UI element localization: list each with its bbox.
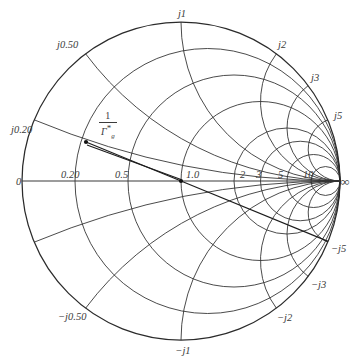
real-axis-label-8: ∞ [340,174,349,189]
reactance-arc--2 [261,181,341,308]
gamma-conjugate-annotation: 1 Γ*g [99,111,117,140]
reactance-positive-label-0: j0.20 [9,124,33,135]
real-axis-label-5: 3 [255,169,261,180]
fraction-numerator: 1 [99,111,117,121]
reactance-positive-label-3: j2 [276,39,287,50]
reactance-negative-label-3: −j1 [175,345,190,356]
fraction-denominator: Γ*g [99,124,117,140]
reactance-negative-label-2: −j2 [277,312,293,323]
reactance-negative-label-0: −j5 [331,243,346,254]
real-axis-label-4: 2 [240,169,246,180]
gamma-subscript: g [111,132,115,140]
reactance-positive-label-4: j3 [309,72,319,83]
reactance-arc-2 [261,54,341,181]
reactance-positive-label-1: j0.50 [55,39,79,50]
smith-chart-canvas: 00.200.51.023510∞j0.20j0.50j1j2j3j5−j5−j… [0,0,361,364]
reactance-negative-label-4: −j0.50 [58,311,87,322]
real-axis-label-6: 5 [278,169,283,180]
reactance-negative-label-1: −j3 [311,279,326,290]
real-axis-label-3: 1.0 [186,169,200,180]
chart-center-marker [179,179,183,183]
reactance-positive-label-2: j1 [176,8,186,19]
gamma-marker-group [84,140,328,241]
real-axis-label-1: 0.20 [61,169,80,180]
smith-chart-figure: 00.200.51.023510∞j0.20j0.50j1j2j3j5−j5−j… [0,0,361,364]
real-axis-label-0: 0 [16,176,22,187]
gamma-point-marker [84,140,88,144]
gamma-mirror-line [181,181,328,241]
reactance-positive-label-5: j5 [332,110,342,121]
real-axis-label-7: 10 [303,169,314,180]
real-axis-label-2: 0.5 [115,169,128,180]
